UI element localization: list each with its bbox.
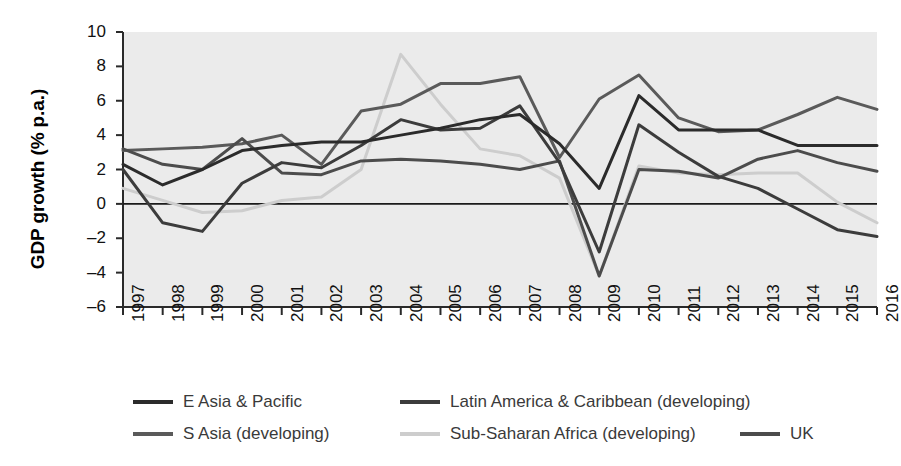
legend-swatch-line-icon <box>133 432 173 436</box>
legend-item[interactable]: UK <box>740 424 814 444</box>
y-tick-label: 6 <box>66 92 106 109</box>
x-tick-label: 2003 <box>368 284 385 322</box>
x-tick-label: 1999 <box>209 284 226 322</box>
x-tick-label: 2010 <box>646 284 663 322</box>
y-tick-label: 8 <box>66 57 106 74</box>
x-tick-label: 2007 <box>527 284 544 322</box>
plot-area: 1086420–2–4–6 19971998199920002001200220… <box>0 0 901 380</box>
x-tick-label: 2006 <box>487 284 504 322</box>
x-tick-label: 2012 <box>725 284 742 322</box>
x-tick-label: 2005 <box>447 284 464 322</box>
chart-legend: E Asia & PacificLatin America & Caribbea… <box>0 388 901 466</box>
y-tick-label: 2 <box>66 161 106 178</box>
y-tick-label: –4 <box>66 264 106 281</box>
x-tick-label: 1998 <box>170 284 187 322</box>
legend-label: Sub-Saharan Africa (developing) <box>450 424 696 444</box>
x-tick-label: 2015 <box>844 284 861 322</box>
x-tick-label: 2004 <box>408 284 425 322</box>
legend-item[interactable]: E Asia & Pacific <box>133 392 302 412</box>
x-tick-label: 2014 <box>805 284 822 322</box>
legend-swatch-line-icon <box>400 400 440 404</box>
legend-label: E Asia & Pacific <box>183 392 302 412</box>
y-tick-label: 4 <box>66 126 106 143</box>
legend-swatch-line-icon <box>400 432 440 436</box>
x-tick-label: 2013 <box>765 284 782 322</box>
chart-canvas <box>0 0 901 380</box>
series-line <box>123 54 877 276</box>
x-tick-label: 2008 <box>567 284 584 322</box>
x-tick-label: 2001 <box>289 284 306 322</box>
legend-label: UK <box>790 424 814 444</box>
chart-figure: GDP growth (% p.a.) 1086420–2–4–6 199719… <box>0 0 901 466</box>
x-tick-label: 2002 <box>328 284 345 322</box>
legend-swatch-line-icon <box>740 432 780 436</box>
legend-item[interactable]: Sub-Saharan Africa (developing) <box>400 424 696 444</box>
legend-label: S Asia (developing) <box>183 424 329 444</box>
x-tick-label: 2016 <box>884 284 901 322</box>
y-tick-label: –2 <box>66 229 106 246</box>
y-tick-label: 0 <box>66 195 106 212</box>
x-tick-label: 2009 <box>606 284 623 322</box>
legend-item[interactable]: S Asia (developing) <box>133 424 329 444</box>
x-tick-label: 2000 <box>249 284 266 322</box>
y-tick-label: –6 <box>66 298 106 315</box>
legend-item[interactable]: Latin America & Caribbean (developing) <box>400 392 751 412</box>
legend-swatch-line-icon <box>133 400 173 404</box>
series-line <box>123 139 877 277</box>
legend-label: Latin America & Caribbean (developing) <box>450 392 751 412</box>
x-tick-label: 2011 <box>686 285 703 322</box>
y-tick-label: 10 <box>66 23 106 40</box>
x-tick-label: 1997 <box>130 284 147 322</box>
